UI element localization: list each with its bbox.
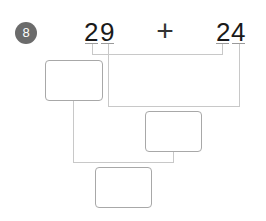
connector-ones-horizontal — [108, 106, 240, 107]
right-ones-digit: 4 — [231, 18, 245, 46]
plus-operator: + — [154, 16, 176, 46]
problem-number-badge: 8 — [15, 22, 37, 44]
connector-tens-horizontal — [92, 54, 223, 55]
left-ones-digit: 9 — [100, 18, 114, 46]
connector-left-ones — [108, 44, 109, 106]
answer-box-tens-sum[interactable] — [45, 60, 103, 101]
connector-box1-down — [73, 101, 74, 163]
connector-right-ones — [239, 44, 240, 106]
answer-box-ones-sum[interactable] — [145, 111, 202, 152]
connector-sum-horizontal — [73, 162, 174, 163]
answer-box-total[interactable] — [95, 167, 152, 208]
right-tens-digit: 2 — [216, 18, 230, 46]
left-tens-digit: 2 — [84, 18, 98, 46]
